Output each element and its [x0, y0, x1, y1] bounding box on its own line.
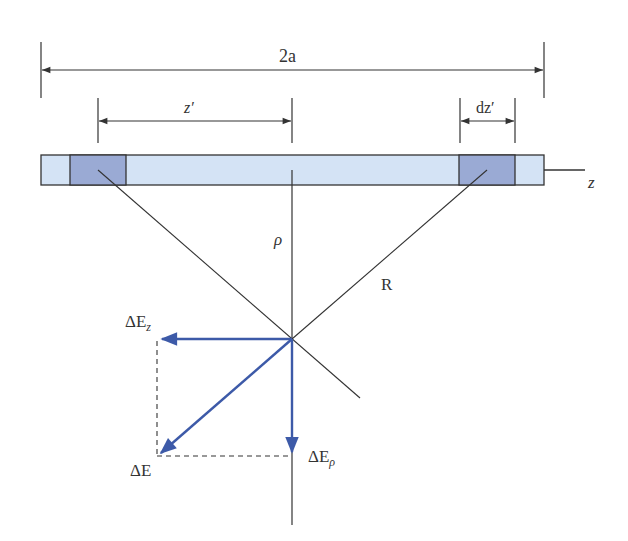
label-delta-e-rho-main: ΔE	[308, 447, 329, 466]
dimension-z-prime	[98, 98, 292, 143]
label-dz-prime: dz′	[476, 100, 495, 116]
label-z-axis: z	[588, 174, 595, 191]
diagram-canvas: 2a z′ dz′ z ρ R ΔEz ΔE ΔEρ	[0, 0, 628, 541]
label-R: R	[381, 276, 392, 293]
distance-line-R	[292, 170, 487, 339]
label-2a: 2a	[279, 47, 296, 65]
label-delta-e-rho-sub: ρ	[329, 455, 335, 469]
field-vectors	[161, 339, 292, 453]
distance-line-left	[98, 170, 360, 398]
vector-delta-e	[161, 339, 292, 453]
label-delta-e-z-main: ΔE	[125, 312, 146, 331]
label-delta-e-rho: ΔEρ	[308, 448, 335, 468]
label-rho: ρ	[274, 231, 282, 248]
label-delta-e-z-sub: z	[146, 320, 151, 334]
label-z-prime: z′	[184, 100, 194, 116]
label-delta-e-z: ΔEz	[125, 313, 151, 333]
label-delta-e: ΔE	[130, 462, 151, 479]
